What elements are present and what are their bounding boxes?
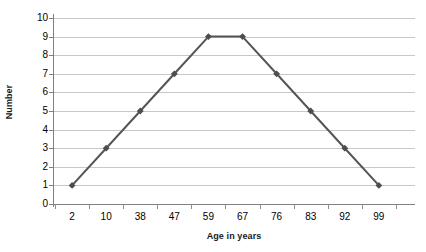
y-axis-tick-labels: 012345678910 xyxy=(22,0,48,252)
y-axis-title: Number xyxy=(0,0,18,204)
y-axis-tick-mark xyxy=(49,204,54,205)
x-axis-tick-mark xyxy=(294,204,295,209)
y-axis-tick-mark xyxy=(49,55,54,56)
x-axis-tick-mark xyxy=(55,204,56,209)
y-axis-tick-mark xyxy=(49,74,54,75)
line-chart: Number 012345678910 Age in years 2103847… xyxy=(0,0,426,252)
y-axis-tick-mark xyxy=(49,130,54,131)
y-axis-tick-mark xyxy=(49,37,54,38)
y-axis-tick-mark xyxy=(49,92,54,93)
x-axis-tick-mark xyxy=(225,204,226,209)
x-axis-tick-mark xyxy=(89,204,90,209)
y-axis-tick-mark xyxy=(49,148,54,149)
y-axis-tick-mark xyxy=(49,18,54,19)
x-axis-line xyxy=(53,204,410,205)
x-axis-tick-mark xyxy=(157,204,158,209)
y-axis-tick-label: 10 xyxy=(37,13,48,23)
y-axis-tick-mark xyxy=(49,111,54,112)
x-axis-tick-mark xyxy=(362,204,363,209)
y-axis-tick-label: 1 xyxy=(42,180,48,190)
data-series-line xyxy=(53,18,415,204)
x-axis-tick-label: 67 xyxy=(237,211,248,223)
x-axis-tick-mark xyxy=(191,204,192,209)
y-axis-tick-label: 2 xyxy=(42,162,48,172)
y-axis-tick-label: 8 xyxy=(42,50,48,60)
x-axis-tick-label: 92 xyxy=(339,211,350,223)
x-axis-tick-mark xyxy=(123,204,124,209)
x-axis-tick-label: 10 xyxy=(101,211,112,223)
x-axis-title: Age in years xyxy=(53,231,415,241)
y-axis-tick-label: 6 xyxy=(42,87,48,97)
x-axis-tick-label: 83 xyxy=(305,211,316,223)
series-line xyxy=(72,37,379,186)
x-axis-tick-mark xyxy=(328,204,329,209)
x-axis-tick-mark xyxy=(396,204,397,209)
y-axis-tick-label: 0 xyxy=(42,199,48,209)
x-axis-tick-label: 99 xyxy=(373,211,384,223)
y-axis-tick-label: 9 xyxy=(42,32,48,42)
y-axis-tick-label: 7 xyxy=(42,69,48,79)
y-axis-tick-mark xyxy=(49,185,54,186)
y-axis-tick-label: 3 xyxy=(42,143,48,153)
y-axis-tick-label: 4 xyxy=(42,125,48,135)
y-axis-tick-label: 5 xyxy=(42,106,48,116)
x-axis-tick-label: 38 xyxy=(135,211,146,223)
x-axis-tick-mark xyxy=(260,204,261,209)
y-axis-title-label: Number xyxy=(4,85,14,120)
x-axis-tick-label: 47 xyxy=(169,211,180,223)
y-axis-tick-mark xyxy=(49,167,54,168)
x-axis-tick-label: 59 xyxy=(203,211,214,223)
x-axis-tick-label: 76 xyxy=(271,211,282,223)
x-axis-tick-label: 2 xyxy=(69,211,75,223)
